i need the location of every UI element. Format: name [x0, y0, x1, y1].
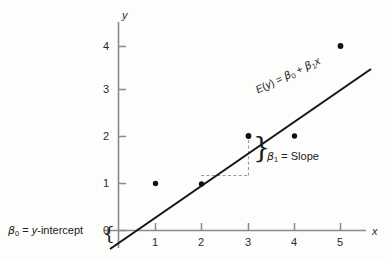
slope-text: = Slope: [278, 150, 319, 162]
data-point: [338, 43, 344, 49]
intercept-beta-symbol: β: [8, 224, 15, 237]
intercept-brace: {: [103, 224, 115, 243]
y-tick-label-1: 1: [103, 177, 109, 189]
slope-beta-symbol: β: [267, 150, 274, 163]
x-tick-label-5: 5: [337, 236, 343, 248]
data-point: [292, 133, 297, 138]
x-axis-label: x: [372, 225, 378, 237]
data-point: [153, 181, 158, 186]
x-tick-label-4: 4: [291, 236, 297, 248]
intercept-equals: =: [19, 224, 32, 236]
data-point: [199, 181, 204, 186]
regression-figure: 0 1 2 3 4 1 2 3 4 5 y x E(y) = β0 + β1x …: [0, 0, 391, 259]
x-tick-label-2: 2: [198, 236, 204, 248]
x-axis-ticks: [156, 223, 341, 231]
regression-line: [110, 69, 371, 249]
intercept-text: -intercept: [37, 224, 83, 236]
intercept-beta-subscript: 0: [15, 229, 19, 238]
x-tick-label-1: 1: [152, 236, 158, 248]
data-point: [246, 133, 252, 139]
y-tick-label-2: 2: [103, 130, 109, 142]
y-tick-label-4: 4: [103, 40, 109, 52]
slope-label: β1 = Slope: [267, 150, 319, 163]
y-axis-label: y: [122, 9, 128, 21]
y-axis-ticks: [119, 47, 127, 231]
slope-beta-subscript: 1: [274, 155, 278, 164]
y-tick-label-3: 3: [103, 83, 109, 95]
x-tick-label-3: 3: [245, 236, 251, 248]
plot-canvas: [0, 0, 391, 259]
intercept-label: β0 = y-intercept: [8, 224, 83, 237]
